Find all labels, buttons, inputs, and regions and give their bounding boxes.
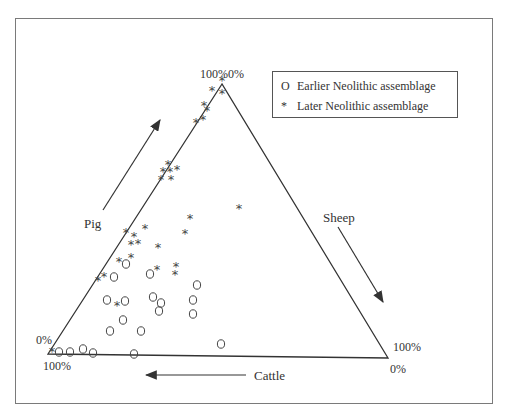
earlier-neolithic-point [193, 281, 200, 289]
earlier-neolithic-point [155, 307, 162, 315]
cattle-100-label: 100% [43, 360, 71, 372]
later-neolithic-point: * [219, 86, 226, 101]
data-markers: ******************************* [49, 73, 243, 359]
circle-marker-icon: O [281, 80, 297, 92]
earlier-neolithic-point [121, 297, 128, 305]
earlier-neolithic-point [189, 296, 196, 304]
later-neolithic-point: * [200, 112, 207, 127]
later-neolithic-point: * [95, 273, 102, 288]
earlier-neolithic-point [66, 348, 73, 356]
later-neolithic-point: * [116, 254, 123, 269]
later-neolithic-point: * [158, 172, 165, 187]
sheep-100-label: 100% [393, 341, 421, 353]
earlier-neolithic-point [119, 316, 126, 324]
earlier-neolithic-point [110, 273, 117, 281]
earlier-neolithic-point [103, 296, 110, 304]
later-neolithic-point: * [193, 115, 200, 130]
later-neolithic-point: * [114, 298, 121, 313]
legend-label-later: Later Neolithic assemblage [297, 99, 428, 113]
earlier-neolithic-point [106, 327, 113, 335]
earlier-neolithic-point [130, 350, 137, 358]
sheep-arrow [338, 227, 383, 302]
pig-100-label: 100% [200, 68, 228, 80]
later-neolithic-point: * [182, 226, 189, 241]
sheep-0-label: 0% [228, 68, 244, 80]
later-neolithic-point: * [209, 83, 216, 98]
pig-arrow [103, 120, 160, 210]
cattle-axis-title: Cattle [254, 369, 285, 382]
later-neolithic-point: * [142, 221, 149, 236]
asterisk-marker-icon: * [281, 100, 297, 112]
later-neolithic-point: * [172, 267, 179, 282]
legend: OEarlier Neolithic assemblage *Later Neo… [272, 71, 458, 118]
earlier-neolithic-point [89, 349, 96, 357]
cattle-0-label: 0% [390, 363, 406, 375]
later-neolithic-point: * [101, 269, 108, 284]
legend-label-earlier: Earlier Neolithic assemblage [297, 79, 436, 93]
ternary-plot: ******************************* [0, 0, 506, 419]
legend-item-earlier: OEarlier Neolithic assemblage [281, 80, 436, 92]
pig-0-label: 0% [36, 334, 52, 346]
later-neolithic-point: * [174, 162, 181, 177]
later-neolithic-point: * [187, 211, 194, 226]
sheep-axis-title: Sheep [323, 211, 355, 224]
pig-axis-title: Pig [84, 217, 101, 230]
earlier-neolithic-point [137, 327, 144, 335]
earlier-neolithic-point [146, 270, 153, 278]
earlier-neolithic-point [157, 299, 164, 307]
later-neolithic-point: * [236, 201, 243, 216]
later-neolithic-point: * [128, 250, 135, 265]
legend-item-later: *Later Neolithic assemblage [281, 100, 428, 112]
later-neolithic-point: * [168, 172, 175, 187]
later-neolithic-point: * [154, 262, 161, 277]
earlier-neolithic-point [149, 293, 156, 301]
earlier-neolithic-point [55, 348, 62, 356]
earlier-neolithic-point [217, 340, 224, 348]
later-neolithic-point: * [135, 236, 142, 251]
earlier-neolithic-point [189, 310, 196, 318]
earlier-neolithic-point [79, 345, 86, 353]
later-neolithic-point: * [155, 240, 162, 255]
